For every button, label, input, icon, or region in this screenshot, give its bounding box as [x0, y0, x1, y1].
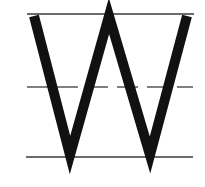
- letter-practice-sheet: [0, 0, 205, 187]
- letter-tracing-worksheet: W: [0, 0, 205, 187]
